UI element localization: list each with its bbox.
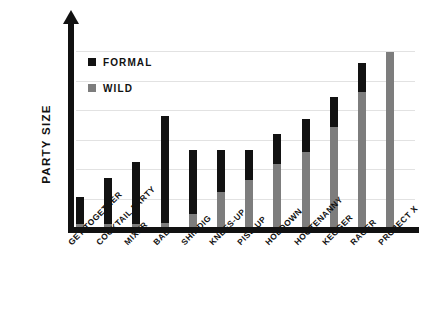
party-size-chart: PARTY SIZE FORMAL WILD GET-TOGETHERCOCKT… <box>0 0 427 332</box>
axes: PARTY SIZE <box>0 0 427 332</box>
wild-swatch-icon <box>88 84 96 92</box>
y-axis-title: PARTY SIZE <box>40 84 52 204</box>
legend-label-formal: FORMAL <box>103 57 152 68</box>
y-axis-line <box>68 22 74 230</box>
legend-label-wild: WILD <box>103 83 133 94</box>
legend-item-wild: WILD <box>88 81 152 95</box>
chart-legend: FORMAL WILD <box>88 55 152 107</box>
formal-swatch-icon <box>88 58 96 66</box>
legend-item-formal: FORMAL <box>88 55 152 69</box>
